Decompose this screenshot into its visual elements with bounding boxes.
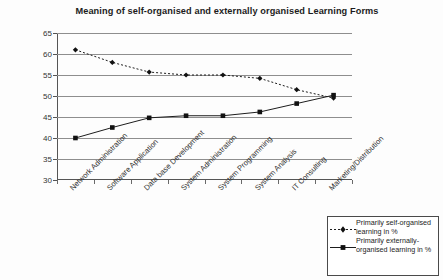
- legend-label-self-organised: Primarily self-organised learning in %: [356, 219, 436, 236]
- legend-label-externally-organised: Primarily externally-organised learning …: [356, 237, 436, 254]
- chart-legend: Primarily self-organised learning in % P…: [327, 216, 439, 276]
- legend-item-externally-organised: Primarily externally-organised learning …: [330, 237, 436, 254]
- x-axis-label: IT Consulting: [290, 154, 328, 192]
- legend-item-self-organised: Primarily self-organised learning in %: [330, 219, 436, 236]
- legend-key-square-solid: [330, 238, 356, 247]
- legend-key-diamond-dotted: [330, 220, 356, 229]
- x-axis-label: Marketing/Distribution: [327, 134, 385, 192]
- chart-page: Meaning of self-organised and externally…: [0, 0, 443, 280]
